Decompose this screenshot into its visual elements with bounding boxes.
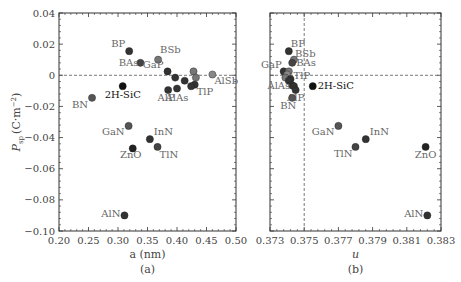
point-label: GaP [261,59,282,70]
point-label: AlSb [213,75,238,86]
panel-a: 0.200.250.300.350.400.450.500.040.020−0.… [24,8,247,247]
x-tick-label: 0.25 [77,235,99,246]
x-tick-label: 0.50 [225,235,247,246]
data-point [289,59,296,66]
point-label: AlAs [165,92,189,103]
y-tick-label: 0 [49,70,55,81]
x-axis-label-b: u [352,248,359,261]
point-label: TlP [197,86,214,97]
x-tick-label: 0.20 [48,235,70,246]
data-point [125,122,132,129]
data-point [172,74,179,81]
point-label: BN [72,99,88,110]
data-point [362,136,369,143]
panel-caption-a: (a) [140,263,155,276]
x-axis-label-a: a (nm) [129,248,165,261]
x-tick-label: 0.377 [324,235,353,246]
x-tick-label: 0.375 [290,235,319,246]
point-label: TlP [294,70,311,81]
point-label: BSb [160,44,181,55]
data-point [88,94,95,101]
data-point [121,212,128,219]
y-tick-label: −0.10 [24,226,55,237]
x-tick-label: 0.381 [392,235,421,246]
point-label: 2H-SiC [105,89,142,100]
point-label: BN [280,100,296,111]
panel-b: 0.3730.3750.3770.3790.3810.383BPBSbBAsGa… [256,13,456,246]
y-tick-label: −0.08 [24,194,55,205]
data-point [126,48,133,55]
point-label: GaN [102,126,125,137]
data-point [309,83,316,90]
data-point [335,122,342,129]
data-point [181,77,188,84]
x-tick-label: 0.45 [195,235,217,246]
x-tick-label: 0.30 [107,235,129,246]
point-label: AlN [100,208,120,219]
y-tick-label: 0.02 [33,39,55,50]
x-tick-label: 0.373 [256,235,285,246]
plot-frame [59,13,236,231]
point-label: GaN [312,126,335,137]
point-label: BAs [119,57,139,68]
y-axis-label: Psp(C·m−2) [10,93,25,153]
y-tick-label: −0.06 [24,163,55,174]
data-point [424,212,431,219]
data-point [192,74,199,81]
x-tick-label: 0.383 [427,235,456,246]
x-tick-label: 0.40 [166,235,188,246]
point-label: GaP [143,59,164,70]
x-tick-label: 0.35 [136,235,158,246]
data-point [188,83,195,90]
data-point [352,143,359,150]
point-label: 2H-SiC [318,80,355,91]
point-label: InN [154,126,173,137]
point-label: AlN [403,208,423,219]
y-tick-label: −0.02 [24,101,55,112]
panel-caption-b: (b) [348,263,364,276]
y-tick-label: −0.04 [24,132,55,143]
figure: 0.200.250.300.350.400.450.500.040.020−0.… [0,0,461,282]
point-label: TlN [334,148,353,159]
y-tick-label: 0.04 [33,8,55,19]
point-label: ZnO [415,149,437,160]
data-point [164,68,171,75]
point-label: ZnO [120,149,142,160]
point-label: BAs [296,57,316,68]
point-label: AlAs [266,80,290,91]
point-label: InN [370,126,389,137]
data-point [146,136,153,143]
point-label: BP [111,38,125,49]
point-label: TlN [160,149,179,160]
x-tick-label: 0.379 [358,235,387,246]
